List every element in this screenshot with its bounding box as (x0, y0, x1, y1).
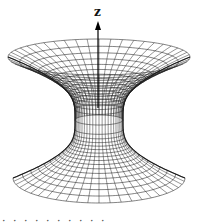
mesh-line (20, 48, 78, 118)
wormhole-surface-diagram (0, 0, 198, 223)
mesh-line (118, 123, 167, 193)
mesh-line (122, 62, 187, 122)
mesh-line (121, 122, 178, 188)
mesh-line (64, 40, 90, 115)
z-axis-label: z (94, 6, 101, 18)
mesh-line (121, 64, 183, 122)
mesh-line (20, 122, 77, 188)
figure-caption-cut-off: · · · · · · · · · · (2, 216, 198, 223)
mesh-line (11, 62, 76, 122)
mesh-line (15, 64, 77, 122)
mesh-line (108, 40, 134, 115)
z-axis-arrowhead-icon (95, 21, 101, 30)
mesh-line (31, 123, 80, 193)
surface-mesh-front (8, 57, 190, 203)
mesh-line (120, 123, 174, 191)
mesh-line (120, 48, 178, 118)
mesh-line (25, 123, 79, 191)
